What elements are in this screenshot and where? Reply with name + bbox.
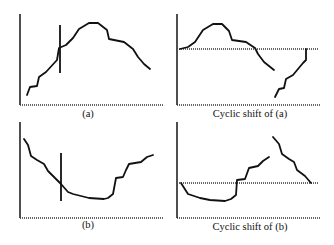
caption-shift-b: Cyclic shift of (b) (213, 221, 288, 233)
panel-b (20, 122, 163, 218)
caption-shift-a: Cyclic shift of (a) (213, 108, 288, 120)
signal-curve (275, 49, 306, 97)
signal-curve (24, 139, 153, 199)
signal-curve (273, 137, 311, 183)
caption-b: (b) (82, 219, 95, 231)
signal-curve (27, 23, 150, 95)
panel-shift_b (177, 122, 320, 218)
panel-a (20, 14, 163, 105)
panel-shift_a (177, 14, 320, 105)
caption-a: (a) (82, 108, 94, 120)
signal-curve (181, 157, 269, 201)
cyclic-shift-figure: (a) Cyclic shift of (a) (b) Cyclic shift… (0, 0, 334, 245)
signal-curve (180, 24, 274, 70)
